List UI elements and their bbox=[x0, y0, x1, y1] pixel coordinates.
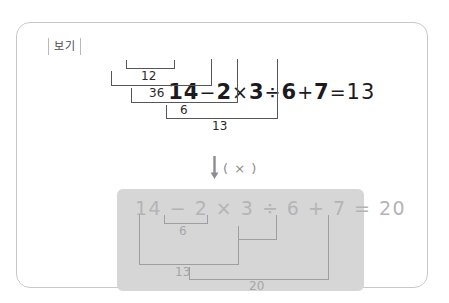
tab-tick-left bbox=[48, 38, 49, 55]
top-step2-tick-left bbox=[111, 71, 112, 86]
gray-step2-tick-right bbox=[238, 226, 239, 265]
top-result-13: 13 bbox=[347, 80, 376, 104]
gray-step3-tick-right bbox=[328, 215, 329, 279]
gray-step2-rule-upper bbox=[238, 239, 277, 240]
top-step2-label: 36 bbox=[149, 87, 164, 99]
transition-marker: ( × ) bbox=[210, 156, 257, 180]
top-op-times: × bbox=[232, 81, 249, 103]
top-op-equals: = bbox=[330, 81, 347, 103]
incorrect-mark: ( × ) bbox=[223, 162, 257, 175]
top-step1-label: 12 bbox=[141, 70, 156, 82]
gray-step1-label: 6 bbox=[179, 225, 187, 237]
gray-step2-label: 13 bbox=[175, 266, 190, 278]
answer-box: 14 − 2 × 3 ÷ 6 + 7 = 20 6 13 20 bbox=[117, 189, 364, 291]
top-term-2: 2 bbox=[216, 80, 232, 104]
top-step4-tick-right bbox=[277, 59, 278, 118]
top-step2-tick-right bbox=[211, 59, 212, 86]
gray-step2-tick-divisor bbox=[276, 215, 277, 240]
top-term-6: 6 bbox=[282, 80, 298, 104]
gray-step1-tick-right bbox=[207, 215, 208, 224]
top-step4-label: 13 bbox=[212, 120, 227, 132]
top-step3-tick-right bbox=[237, 59, 238, 103]
boogi-tab-label: 보기 bbox=[54, 41, 75, 52]
top-op-plus: + bbox=[297, 81, 314, 103]
tab-tick-right bbox=[80, 38, 81, 55]
top-step1-tick-right bbox=[174, 60, 175, 69]
gray-step2-tick-left bbox=[139, 215, 140, 265]
top-step4-tick-left bbox=[166, 105, 167, 119]
gray-expression: 14 − 2 × 3 ÷ 6 + 7 = 20 bbox=[135, 199, 406, 218]
top-step3-label: 6 bbox=[180, 104, 188, 116]
top-term-14: 14 bbox=[168, 80, 199, 104]
gray-step3-label: 20 bbox=[249, 280, 264, 292]
boogi-tab: 보기 bbox=[45, 36, 84, 56]
top-step3-tick-left bbox=[131, 88, 132, 103]
down-arrow-icon bbox=[210, 156, 219, 180]
top-op-divide: ÷ bbox=[265, 81, 282, 103]
worksheet-frame: 보기 14−2×3÷6+7=13 12 36 6 13 ( × ) 14 − 2… bbox=[16, 22, 428, 288]
top-term-7: 7 bbox=[314, 80, 330, 104]
top-term-3: 3 bbox=[249, 80, 265, 104]
top-expression: 14−2×3÷6+7=13 bbox=[135, 61, 375, 124]
